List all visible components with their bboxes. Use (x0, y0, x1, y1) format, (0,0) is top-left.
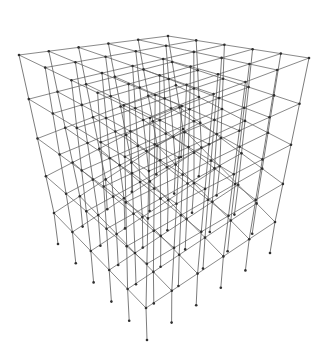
frame-node (171, 290, 174, 293)
column (154, 144, 155, 188)
frame-node (70, 79, 73, 82)
frame-node (273, 94, 276, 97)
column (121, 107, 127, 135)
beam (253, 49, 281, 53)
frame-node (240, 152, 243, 155)
frame-node (247, 86, 250, 89)
column (140, 88, 144, 120)
beam (223, 239, 249, 256)
beam (53, 105, 82, 114)
frame-node (158, 74, 161, 77)
column (82, 105, 88, 143)
column (111, 96, 116, 131)
column-stub (80, 196, 83, 226)
beam (38, 128, 66, 139)
column (198, 70, 199, 97)
beam (82, 96, 111, 105)
frame-node (132, 212, 135, 215)
column (171, 109, 173, 137)
beam (163, 52, 194, 59)
support-node (110, 300, 113, 303)
frame-node (90, 250, 93, 253)
column-stub (91, 251, 94, 282)
beam (93, 107, 121, 118)
column-layer (19, 36, 309, 340)
column (108, 44, 114, 77)
beam (177, 189, 206, 204)
frame-node (171, 61, 174, 64)
frame-node (53, 212, 56, 215)
beam (249, 222, 275, 239)
frame-node (173, 247, 176, 250)
column (115, 132, 119, 166)
support-node (198, 175, 201, 178)
beam (82, 105, 106, 118)
frame-node (58, 153, 61, 156)
beam (238, 185, 256, 204)
beam (262, 169, 283, 184)
frame-node (18, 54, 21, 57)
support-node (148, 210, 151, 213)
frame-node (115, 233, 118, 236)
beam (244, 95, 274, 107)
frame-node (193, 182, 196, 185)
frame-node (298, 103, 301, 106)
beam (66, 194, 86, 212)
support-node (226, 250, 229, 253)
column (45, 68, 53, 114)
column (220, 138, 221, 166)
frame-node (92, 116, 95, 119)
column (222, 79, 223, 109)
frame-node (193, 51, 196, 54)
frame-node (212, 93, 215, 96)
support-node (184, 248, 187, 251)
frame-node (222, 77, 225, 80)
column-stub (228, 221, 231, 252)
column (268, 95, 274, 132)
column (93, 117, 99, 149)
frame-node (180, 214, 183, 217)
frame-node (227, 215, 230, 218)
frame-node (181, 173, 184, 176)
frame-node (36, 137, 39, 140)
frame-node (219, 165, 222, 168)
column (77, 128, 82, 171)
beam (91, 234, 117, 251)
beam (86, 77, 115, 85)
beam (111, 88, 140, 97)
frame-node (220, 57, 223, 60)
frame-node (196, 272, 199, 275)
frame-node (222, 255, 225, 258)
column-stub (72, 232, 75, 263)
beam (98, 198, 124, 215)
frame-node (178, 106, 181, 109)
frame-node (238, 129, 241, 132)
column (29, 99, 38, 138)
beam (135, 236, 161, 253)
frame-node (153, 230, 156, 233)
column (234, 131, 240, 175)
column (229, 174, 234, 216)
frame-node (159, 119, 162, 122)
frame-node (107, 42, 110, 45)
frame-node (178, 254, 181, 257)
frame-node (183, 131, 186, 134)
frame-node (193, 151, 196, 154)
support-node (106, 208, 109, 211)
beam (218, 64, 249, 74)
beam (19, 55, 45, 68)
column (135, 108, 138, 146)
frame-node (71, 161, 74, 164)
support-node (124, 227, 127, 230)
support-node (177, 285, 180, 288)
frame-node (142, 68, 145, 71)
beam (176, 85, 199, 97)
frame-node (237, 184, 240, 187)
frame-node (97, 214, 100, 217)
column-stub (54, 213, 58, 244)
frame-node (125, 134, 128, 137)
frame-node (243, 106, 246, 109)
frame-node (142, 119, 145, 122)
beam (140, 167, 167, 182)
column-stub (185, 219, 186, 250)
